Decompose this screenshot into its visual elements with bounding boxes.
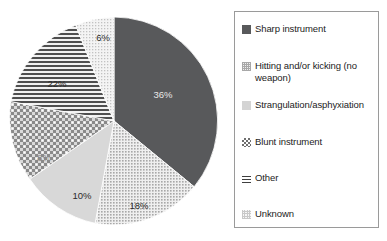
pie-label-blunt-instrument: 8%	[37, 152, 51, 163]
legend-item-unknown: Unknown	[242, 208, 376, 220]
legend-item-other: Other	[242, 172, 376, 184]
legend-label-blunt-instrument: Blunt instrument	[255, 136, 322, 148]
legend-label-other: Other	[255, 172, 278, 184]
legend-swatch-other-icon	[242, 174, 251, 183]
legend-swatch-hitting-kicking-icon	[242, 62, 251, 71]
legend-swatch-strangulation-icon	[242, 101, 251, 110]
legend-label-hitting-kicking: Hitting and/or kicking (no weapon)	[255, 60, 376, 83]
legend-item-blunt-instrument: Blunt instrument	[242, 136, 376, 148]
pie-label-unknown: 6%	[96, 32, 110, 43]
legend-item-strangulation: Strangulation/asphyxiation	[242, 99, 376, 111]
chart-legend: Sharp instrument Hitting and/or kicking …	[234, 11, 379, 228]
pie-label-strangulation: 10%	[72, 190, 92, 201]
pie-label-other: 22%	[47, 78, 67, 89]
legend-swatch-unknown-icon	[242, 210, 251, 219]
legend-swatch-blunt-instrument-icon	[242, 138, 251, 147]
pie-label-sharp-instrument: 36%	[153, 89, 173, 100]
legend-label-sharp-instrument: Sharp instrument	[255, 23, 326, 35]
pie-chart-area: 36% 18% 10% 8% 22% 6%	[0, 0, 228, 241]
legend-swatch-sharp-instrument-icon	[242, 25, 251, 34]
legend-label-strangulation: Strangulation/asphyxiation	[255, 99, 364, 111]
legend-item-hitting-kicking: Hitting and/or kicking (no weapon)	[242, 60, 376, 83]
pie-chart-svg: 36% 18% 10% 8% 22% 6%	[8, 13, 220, 229]
pie-label-hitting-kicking: 18%	[129, 200, 149, 211]
legend-item-sharp-instrument: Sharp instrument	[242, 23, 376, 35]
legend-label-unknown: Unknown	[255, 208, 294, 220]
